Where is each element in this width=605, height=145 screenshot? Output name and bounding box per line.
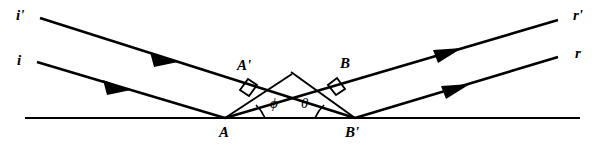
- label-angle-theta: θ: [301, 96, 308, 111]
- label-point-a-prime: A': [237, 58, 251, 73]
- figure-canvas: [0, 0, 605, 145]
- label-reflected-upper-ray: r': [573, 8, 583, 23]
- optics-reflection-figure: i' i r' r A A' B B' ϕ θ: [0, 0, 605, 145]
- reflected-lower-ray-arrowhead: [441, 84, 470, 99]
- label-angle-phi: ϕ: [270, 96, 278, 111]
- reflected-upper-ray-arrowhead: [433, 48, 462, 63]
- label-point-b-prime: B': [345, 125, 359, 140]
- label-point-a: A: [219, 125, 229, 140]
- label-incident-lower-ray: i: [17, 53, 21, 68]
- label-reflected-lower-ray: r: [575, 46, 581, 61]
- label-incident-upper-ray: i': [16, 8, 24, 23]
- label-point-b: B: [340, 56, 350, 71]
